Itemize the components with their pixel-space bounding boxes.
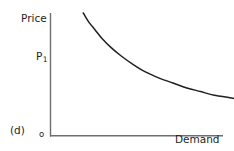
demand-curve — [83, 13, 234, 106]
price-level-subscript: 1 — [43, 55, 48, 64]
price-level-base: P — [36, 50, 42, 62]
price-level-label: P1 — [36, 51, 47, 62]
origin-label: o — [39, 130, 44, 139]
y-axis-title: Price — [21, 13, 47, 24]
axes-group — [50, 13, 223, 137]
demand-curve-figure: (d) Price Demand o P1 — [0, 0, 234, 151]
demand-curve-group — [83, 13, 234, 106]
panel-label: (d) — [10, 125, 25, 136]
x-axis-title: Demand — [175, 134, 220, 145]
